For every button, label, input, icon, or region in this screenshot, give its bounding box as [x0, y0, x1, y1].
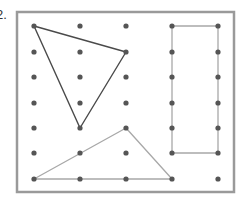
peg-dot [31, 176, 36, 181]
peg-dot [169, 176, 174, 181]
peg-dot [215, 49, 220, 54]
peg-dot [215, 125, 220, 130]
peg-dot [215, 23, 220, 28]
peg-dot [169, 125, 174, 130]
peg-dot [77, 125, 82, 130]
peg-dot [215, 150, 220, 155]
peg-dot [31, 74, 36, 79]
peg-dot [31, 150, 36, 155]
peg-dot [169, 100, 174, 105]
peg-dot [215, 100, 220, 105]
geoboard [0, 0, 245, 199]
peg-dot [169, 49, 174, 54]
peg-dot [123, 176, 128, 181]
peg-dot [77, 150, 82, 155]
light-triangle [34, 128, 172, 179]
peg-dot [215, 74, 220, 79]
peg-dot [123, 125, 128, 130]
peg-dot [77, 23, 82, 28]
peg-dot [123, 49, 128, 54]
peg-dot [123, 100, 128, 105]
peg-dot [123, 23, 128, 28]
peg-dot [123, 150, 128, 155]
peg-dot [77, 74, 82, 79]
peg-grid [31, 23, 220, 181]
peg-dot [215, 176, 220, 181]
peg-dot [77, 176, 82, 181]
peg-dot [123, 74, 128, 79]
rectangle [172, 26, 218, 153]
peg-dot [31, 49, 36, 54]
peg-dot [169, 150, 174, 155]
peg-dot [31, 125, 36, 130]
peg-dot [31, 23, 36, 28]
peg-dot [31, 100, 36, 105]
peg-dot [169, 74, 174, 79]
peg-dot [77, 100, 82, 105]
peg-dot [77, 49, 82, 54]
peg-dot [169, 23, 174, 28]
